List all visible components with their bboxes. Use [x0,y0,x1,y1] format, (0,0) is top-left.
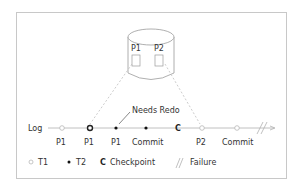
log-recovery-diagram: P1 P2 Log C P1 P1 P1 Commit P2 Commit Ne… [0,0,302,187]
legend-checkpoint-icon: C [100,158,106,167]
legend-t2-label: T2 [75,158,86,167]
legend-failure-label: Failure [190,158,216,167]
log-entry-label: P2 [196,138,206,147]
log-entry-label: P1 [111,138,121,147]
legend-t2-icon [68,161,71,164]
log-entry-label: P1 [84,138,94,147]
legend-t1-icon [29,160,33,164]
annotation-pointer [119,112,130,124]
needs-redo-annotation: Needs Redo [132,106,180,115]
log-entry-t1-commit-icon [235,126,240,131]
log-entry-label: Commit [222,138,253,147]
dashed-connector-p1 [90,64,132,124]
log-entry-t1-p2-icon [200,126,205,131]
legend-t1-label: T1 [37,158,48,167]
log-entry-t1-bold-icon [88,126,93,131]
log-entry-t2-icon [114,126,117,129]
legend: T1 T2 C Checkpoint Failure [29,158,216,168]
log-entry-label: P1 [56,138,66,147]
log-entry-t2-commit-icon [144,126,147,129]
log-entry-label: Commit [132,138,163,147]
log-entry-t1-icon [60,126,65,131]
log-label: Log [28,124,42,133]
disk-page-p1-label: P1 [131,44,141,53]
legend-checkpoint-label: Checkpoint [110,158,155,167]
disk-cylinder: P1 P2 [128,29,174,80]
disk-page-p2-label: P2 [154,44,164,53]
checkpoint-glyph: C [175,124,181,133]
disk-page-p2 [155,55,163,66]
disk-page-p1 [132,55,140,66]
